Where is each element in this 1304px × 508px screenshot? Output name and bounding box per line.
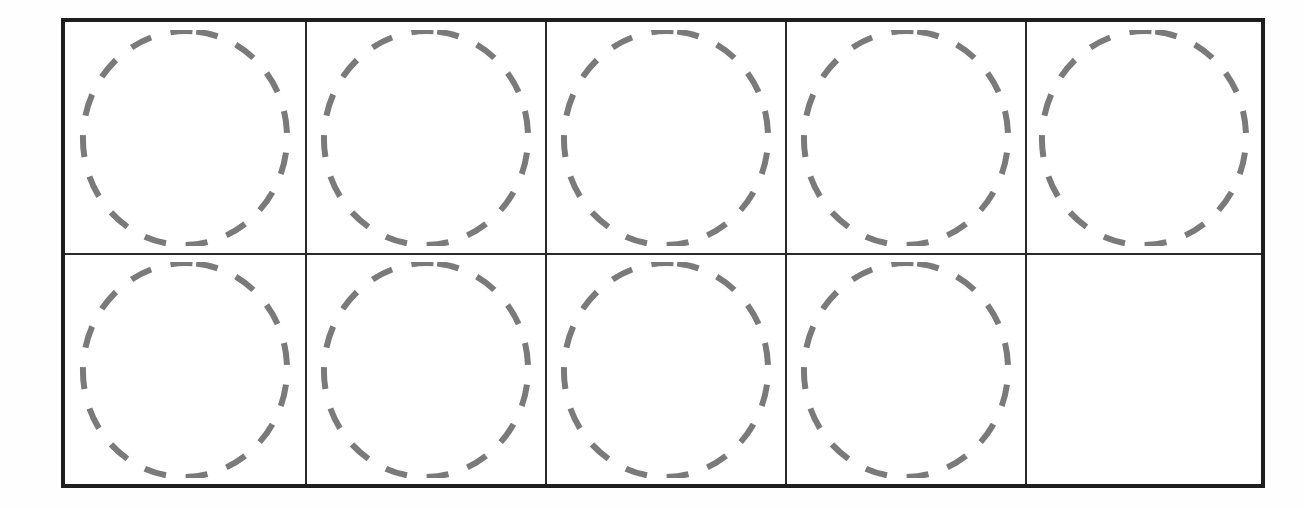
dashed-circle-counter-icon <box>793 262 1019 478</box>
ten-frame-grid <box>61 18 1265 488</box>
dashed-circle-counter-icon <box>313 262 539 478</box>
dashed-circle-counter-icon <box>553 262 779 478</box>
dashed-circle-counter-icon <box>72 30 298 246</box>
ten-frame-cell-r2-c4 <box>787 255 1027 484</box>
ten-frame-cell-r2-c5 <box>1027 255 1261 484</box>
ten-frame-cell-r1-c5 <box>1027 22 1261 255</box>
ten-frame-cell-r1-c1 <box>65 22 307 255</box>
ten-frame-cell-r1-c2 <box>307 22 547 255</box>
dashed-circle-counter-icon <box>1031 30 1257 246</box>
dashed-circle-counter-icon <box>553 30 779 246</box>
ten-frame-cell-r2-c2 <box>307 255 547 484</box>
ten-frame-cell-r1-c3 <box>547 22 787 255</box>
ten-frame-cell-r2-c1 <box>65 255 307 484</box>
ten-frame-cell-r2-c3 <box>547 255 787 484</box>
dashed-circle-counter-icon <box>313 30 539 246</box>
dashed-circle-counter-icon <box>793 30 1019 246</box>
worksheet-page <box>0 0 1304 508</box>
dashed-circle-counter-icon <box>72 262 298 478</box>
ten-frame-cell-r1-c4 <box>787 22 1027 255</box>
